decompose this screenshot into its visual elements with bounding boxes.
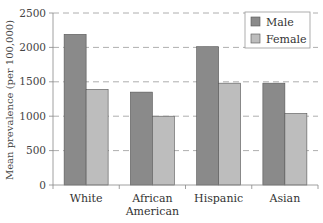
bar-male	[197, 47, 219, 185]
bar-female	[152, 116, 174, 185]
legend-label-female: Female	[266, 33, 307, 46]
bar-female	[219, 83, 241, 185]
y-tick-label: 0	[39, 179, 46, 191]
x-category-label: Hispanic	[194, 192, 243, 205]
legend: Male Female	[245, 12, 310, 48]
bar-male	[130, 92, 152, 185]
x-category-label: American	[125, 205, 179, 218]
y-tick-label: 1500	[19, 75, 46, 87]
y-tick-label: 2500	[19, 7, 46, 19]
legend-swatch-female	[251, 34, 260, 43]
y-axis-title: Mean prevalence (per 100,000)	[4, 20, 15, 180]
x-category-label: African	[131, 192, 172, 205]
legend-label-male: Male	[266, 16, 294, 29]
y-tick-label: 500	[26, 144, 46, 156]
y-tick-label: 2000	[19, 41, 46, 53]
x-category-label: White	[70, 192, 103, 205]
y-tick-label: 1000	[19, 110, 46, 122]
bar-female	[285, 113, 307, 185]
bar-male	[263, 83, 285, 185]
x-axis-labels: WhiteAfricanAmericanHispanicAsian	[70, 192, 301, 218]
bars	[64, 34, 307, 185]
y-axis-ticks: 05001000150020002500	[19, 7, 53, 191]
legend-swatch-male	[251, 17, 260, 26]
bar-chart: 05001000150020002500 WhiteAfricanAmerica…	[0, 0, 323, 223]
bar-female	[86, 89, 108, 185]
x-category-label: Asian	[269, 192, 301, 205]
bar-male	[64, 34, 86, 185]
